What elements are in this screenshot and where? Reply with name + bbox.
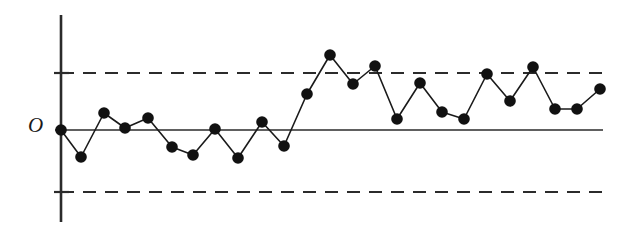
data-series-line: [61, 55, 600, 158]
data-point-marker: [391, 113, 403, 125]
data-point-markers: [55, 49, 606, 164]
data-point-marker: [256, 116, 268, 128]
data-point-marker: [436, 106, 448, 118]
data-point-marker: [549, 103, 561, 115]
control-chart-figure: O: [0, 0, 625, 236]
reference-lines: [54, 73, 603, 192]
data-point-marker: [301, 88, 313, 100]
data-point-marker: [458, 113, 470, 125]
data-point-marker: [119, 122, 131, 134]
data-point-marker: [347, 78, 359, 90]
data-point-marker: [369, 60, 381, 72]
data-point-marker: [75, 151, 87, 163]
data-point-marker: [142, 112, 154, 124]
data-point-marker: [98, 107, 110, 119]
data-point-marker: [481, 68, 493, 80]
chart-plot-area: [0, 0, 625, 236]
data-point-marker: [594, 83, 606, 95]
origin-label: O: [28, 115, 43, 136]
data-point-marker: [278, 140, 290, 152]
data-point-marker: [209, 123, 221, 135]
series-polyline: [61, 55, 600, 158]
data-point-marker: [571, 103, 583, 115]
data-point-marker: [504, 95, 516, 107]
data-point-marker: [166, 141, 178, 153]
data-point-marker: [187, 149, 199, 161]
data-point-marker: [414, 77, 426, 89]
data-point-marker: [324, 49, 336, 61]
data-point-marker: [527, 61, 539, 73]
data-point-marker: [55, 124, 67, 136]
data-point-marker: [232, 152, 244, 164]
